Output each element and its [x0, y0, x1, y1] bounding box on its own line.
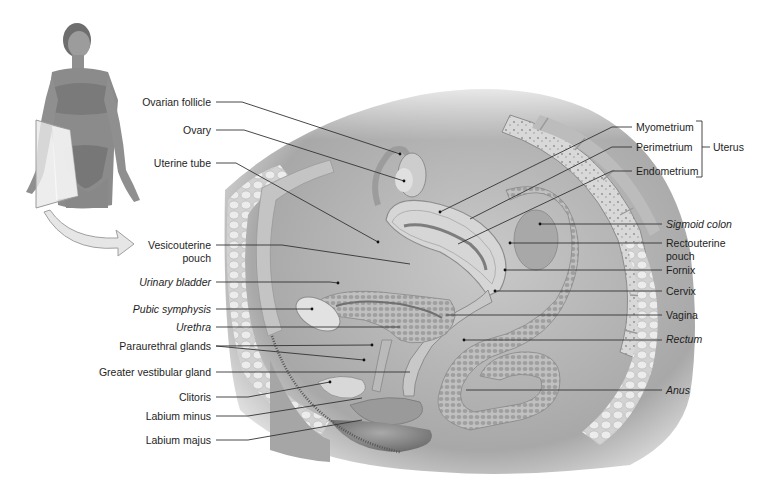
label-vesicouterine: Vesicouterine	[148, 239, 211, 251]
inset-figure	[26, 23, 140, 256]
label-ovarian-follicle: Ovarian follicle	[142, 96, 211, 108]
label-ovary: Ovary	[183, 124, 211, 136]
label-labium-minus: Labium minus	[146, 410, 211, 422]
label-rectouterine-pouch: pouch	[666, 250, 695, 262]
label-rectouterine: Rectouterine	[666, 237, 726, 249]
label-anus: Anus	[666, 384, 690, 396]
label-fornix: Fornix	[666, 264, 695, 276]
label-vesicouterine-pouch: pouch	[182, 252, 211, 264]
label-clitoris: Clitoris	[179, 391, 211, 403]
label-vagina: Vagina	[666, 309, 698, 321]
label-urethra: Urethra	[176, 321, 211, 333]
label-cervix: Cervix	[666, 285, 696, 297]
label-urinary-bladder: Urinary bladder	[139, 276, 211, 288]
sagittal-section	[220, 70, 700, 474]
label-labium-majus: Labium majus	[146, 434, 211, 446]
label-perimetrium: Perimetrium	[636, 141, 693, 153]
label-pubic-symphysis: Pubic symphysis	[133, 303, 211, 315]
label-myometrium: Myometrium	[636, 121, 694, 133]
pelvis-illustration	[0, 0, 763, 488]
label-uterine-tube: Uterine tube	[154, 157, 211, 169]
label-greater-vestibular-gland: Greater vestibular gland	[99, 366, 211, 378]
label-endometrium: Endometrium	[636, 165, 698, 177]
label-sigmoid-colon: Sigmoid colon	[666, 218, 732, 230]
label-rectum: Rectum	[666, 333, 702, 345]
label-uterus: Uterus	[713, 141, 744, 153]
anatomy-figure: Ovarian follicle Ovary Uterine tube Vesi…	[0, 0, 763, 488]
label-paraurethral-glands: Paraurethral glands	[119, 340, 211, 352]
